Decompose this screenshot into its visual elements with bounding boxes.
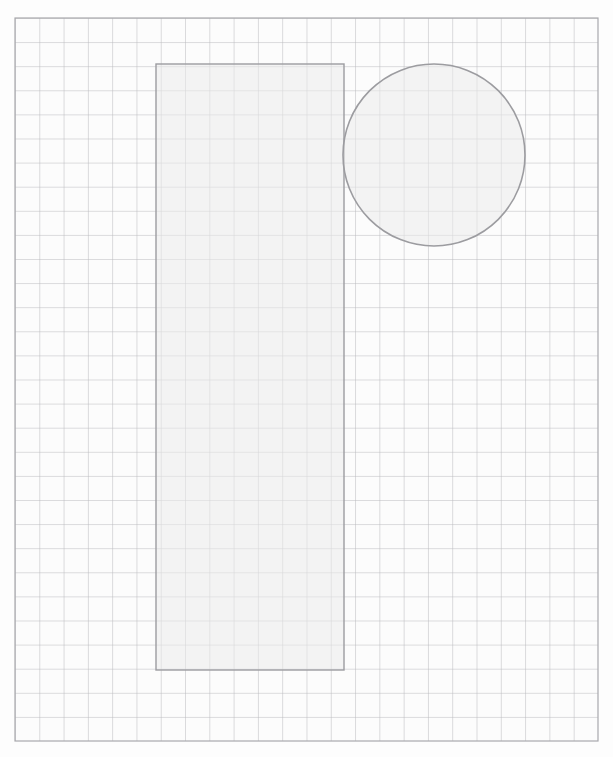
grid-worksheet-canvas — [0, 0, 613, 757]
shape-rectangle[interactable] — [156, 64, 344, 670]
shape-circle[interactable] — [343, 64, 525, 246]
grid-figure — [0, 0, 613, 757]
